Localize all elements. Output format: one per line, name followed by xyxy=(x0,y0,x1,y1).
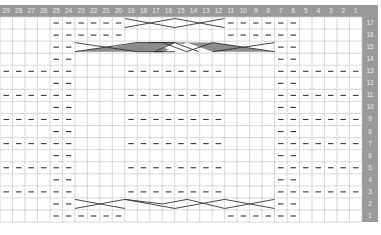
knitting-chart: 2928272625242322212019181716151413121110… xyxy=(0,0,381,235)
chart-grid xyxy=(0,0,381,235)
